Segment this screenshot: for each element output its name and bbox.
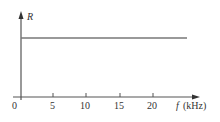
x-tick-label: 20 xyxy=(147,100,157,111)
x-axis-label-var: f xyxy=(176,100,180,111)
chart: R 0 5 10 15 20 f (kHz) xyxy=(0,0,220,122)
y-axis-label: R xyxy=(26,11,33,22)
x-axis-label-unit: (kHz) xyxy=(183,100,206,112)
x-tick-label: 15 xyxy=(114,100,124,111)
x-tick-label: 0 xyxy=(12,100,17,111)
x-tick-label: 5 xyxy=(50,100,55,111)
x-axis-arrow-icon xyxy=(192,95,200,100)
y-axis-arrow-icon xyxy=(19,11,24,19)
x-tick-label: 10 xyxy=(80,100,90,111)
